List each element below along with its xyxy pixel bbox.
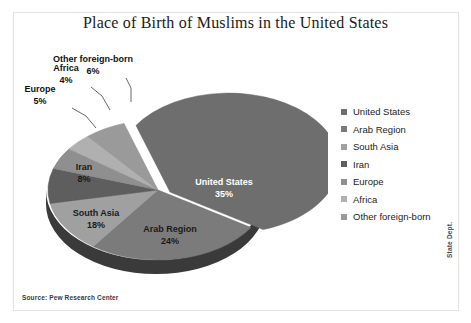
- legend-label: South Asia: [353, 141, 398, 152]
- slice-value-united-states: 35%: [215, 189, 233, 199]
- legend-label: Africa: [353, 194, 377, 205]
- slice-label-arab-region: Arab Region: [143, 224, 197, 234]
- legend-label: Arab Region: [353, 124, 406, 135]
- legend-label: Other foreign-born: [353, 211, 431, 222]
- legend-item-united-states[interactable]: United States: [341, 103, 461, 121]
- slice-value-iran: 8%: [77, 174, 90, 184]
- slice-value-south-asia: 18%: [87, 220, 105, 230]
- legend-swatch-icon: [341, 196, 347, 202]
- pie-callout-labels: Other foreign-born 6% Africa 4% Europe 5…: [24, 54, 133, 106]
- callout-value-europe: 5%: [33, 96, 46, 106]
- legend-label: United States: [353, 106, 410, 117]
- slice-value-arab-region: 24%: [161, 236, 179, 246]
- leader-line-africa: [91, 87, 110, 110]
- legend: United States Arab Region South Asia Ira…: [341, 103, 461, 226]
- pie-leader-lines: [72, 78, 131, 128]
- legend-swatch-icon: [341, 126, 347, 132]
- slice-label-united-states: United States: [195, 177, 253, 187]
- legend-item-africa[interactable]: Africa: [341, 191, 461, 209]
- chart-page: Place of Birth of Muslims in the United …: [0, 0, 471, 323]
- legend-swatch-icon: [341, 144, 347, 150]
- legend-item-europe[interactable]: Europe: [341, 173, 461, 191]
- legend-swatch-icon: [341, 109, 347, 115]
- legend-swatch-icon: [341, 179, 347, 185]
- legend-label: Iran: [353, 159, 369, 170]
- legend-label: Europe: [353, 176, 384, 187]
- pie-chart: United States 35% Arab Region 24% South …: [18, 40, 328, 302]
- legend-item-arab-region[interactable]: Arab Region: [341, 121, 461, 139]
- page-title: Place of Birth of Muslims in the United …: [0, 14, 471, 32]
- callout-label-africa: Africa: [53, 63, 80, 73]
- side-credit: State Dept.: [446, 222, 453, 258]
- callout-value-africa: 4%: [59, 75, 72, 85]
- legend-swatch-icon: [341, 161, 347, 167]
- callout-label-europe: Europe: [24, 84, 55, 94]
- slice-label-iran: Iran: [76, 162, 93, 172]
- legend-item-south-asia[interactable]: South Asia: [341, 138, 461, 156]
- legend-swatch-icon: [341, 214, 347, 220]
- source-note: Source: Pew Research Center: [22, 294, 119, 301]
- legend-item-iran[interactable]: Iran: [341, 156, 461, 174]
- slice-label-south-asia: South Asia: [73, 208, 121, 218]
- callout-value-other-foreign-born: 6%: [86, 66, 99, 76]
- leader-line-other-foreign-born: [126, 78, 131, 102]
- pie-chart-svg: United States 35% Arab Region 24% South …: [18, 40, 328, 302]
- leader-line-europe: [72, 108, 96, 128]
- legend-item-other-foreign-born[interactable]: Other foreign-born: [341, 208, 461, 226]
